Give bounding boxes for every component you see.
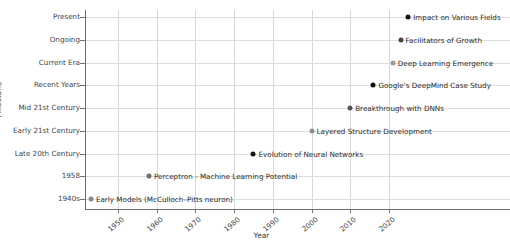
data-point-label: Evolution of Neural Networks (258, 149, 363, 158)
x-tick-mark (234, 209, 235, 213)
data-point-label: Early Models (McCulloch–Pitts neuron) (96, 195, 233, 204)
x-tick-mark (312, 209, 313, 213)
y-tick-label: Mid 21st Century (2, 104, 80, 112)
x-tick-mark (157, 209, 158, 213)
y-tick-label: Recent Years (2, 81, 80, 89)
y-tick-label: Early 21st Century (2, 127, 80, 135)
y-tick-mark (80, 85, 85, 86)
data-point[interactable] (309, 128, 314, 133)
gridline-horizontal (85, 131, 510, 132)
data-point[interactable] (348, 106, 353, 111)
y-axis-title: Milestone (0, 81, 3, 117)
data-point[interactable] (251, 151, 256, 156)
data-point[interactable] (88, 197, 93, 202)
x-tick-mark (118, 209, 119, 213)
y-tick-mark (80, 63, 85, 64)
x-axis-title-container: Year (0, 231, 503, 240)
x-tick-mark (350, 209, 351, 213)
x-tick-mark (273, 209, 274, 213)
y-tick-label: Present (2, 13, 80, 21)
data-point-label: Google's DeepMind Case Study (378, 81, 491, 90)
y-tick-label: Ongoing (2, 36, 80, 44)
plot-area: Early Models (McCulloch–Pitts neuron)Per… (85, 10, 510, 209)
x-tick-mark (195, 209, 196, 213)
data-point[interactable] (390, 60, 395, 65)
x-tick-mark (389, 209, 390, 213)
data-point-label: Layered Structure Development (317, 126, 432, 135)
y-tick-mark (80, 199, 85, 200)
data-point[interactable] (146, 174, 151, 179)
y-tick-label: 1958 (2, 172, 80, 180)
y-tick-mark (80, 176, 85, 177)
data-point[interactable] (371, 83, 376, 88)
y-tick-label: Late 20th Century (2, 150, 80, 158)
data-point-label: Breakthrough with DNNs (355, 104, 444, 113)
data-point[interactable] (406, 15, 411, 20)
x-axis-spine (85, 209, 510, 210)
y-tick-mark (80, 131, 85, 132)
data-point-label: Deep Learning Emergence (398, 58, 493, 67)
y-tick-label: Current Era (2, 59, 80, 67)
y-tick-mark (80, 40, 85, 41)
y-tick-mark (80, 108, 85, 109)
y-tick-label: 1940s (2, 195, 80, 203)
gridline-horizontal (85, 108, 510, 109)
data-point[interactable] (398, 37, 403, 42)
data-point-label: Impact on Various Fields (413, 13, 500, 22)
x-axis-title: Year (254, 231, 270, 240)
y-tick-mark (80, 154, 85, 155)
y-tick-mark (80, 17, 85, 18)
data-point-label: Perceptron - Machine Learning Potential (154, 172, 297, 181)
y-axis-spine (85, 10, 86, 210)
data-point-label: Facilitators of Growth (406, 35, 482, 44)
